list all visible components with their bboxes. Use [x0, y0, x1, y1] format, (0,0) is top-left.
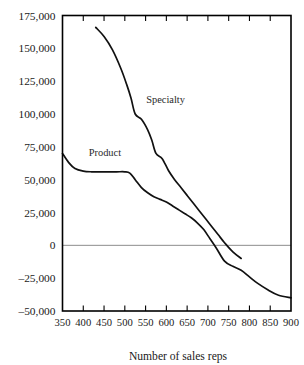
x-axis-title: Number of sales reps [129, 350, 228, 363]
x-axis-ticks-bottom [83, 306, 270, 312]
series-label-specialty: Specialty [146, 94, 185, 105]
x-tick-label: 750 [221, 317, 237, 328]
y-tick-label: 50,000 [24, 174, 56, 186]
x-tick-label: 850 [262, 317, 278, 328]
x-tick-label: 600 [158, 317, 174, 328]
x-tick-label: 400 [75, 317, 91, 328]
y-tick-label: 25,000 [24, 207, 56, 219]
series-curves [63, 27, 292, 298]
chart-container: –50,000–25,000025,00050,00075,000100,000… [0, 0, 304, 365]
x-axis-ticks-top [83, 16, 270, 22]
plot-frame [63, 16, 292, 312]
x-tick-label: 550 [138, 317, 154, 328]
x-tick-label: 350 [55, 317, 71, 328]
x-tick-label: 500 [117, 317, 133, 328]
y-tick-label: 175,000 [18, 10, 55, 22]
x-tick-label: 900 [283, 317, 299, 328]
series-label-product: Product [89, 147, 121, 158]
y-tick-label: –25,000 [17, 272, 55, 284]
break-even-line-chart: –50,000–25,000025,00050,00075,000100,000… [0, 0, 304, 365]
x-tick-label: 800 [242, 317, 258, 328]
y-tick-label: 150,000 [18, 42, 55, 54]
x-tick-label: 700 [200, 317, 216, 328]
series-line-product [63, 153, 292, 297]
x-axis-tick-labels: 350400450500550600650700750800850900 [55, 317, 299, 328]
y-tick-label: 75,000 [24, 141, 56, 153]
y-tick-label: –50,000 [17, 305, 55, 317]
y-tick-label: 125,000 [18, 75, 55, 87]
y-axis-tick-labels: –50,000–25,000025,00050,00075,000100,000… [17, 10, 55, 318]
x-tick-label: 450 [96, 317, 112, 328]
y-tick-label: 100,000 [18, 108, 55, 120]
x-tick-label: 650 [179, 317, 195, 328]
series-annotations: SpecialtyProduct [89, 94, 186, 158]
series-line-specialty [96, 27, 241, 258]
y-tick-label: 0 [50, 239, 56, 251]
